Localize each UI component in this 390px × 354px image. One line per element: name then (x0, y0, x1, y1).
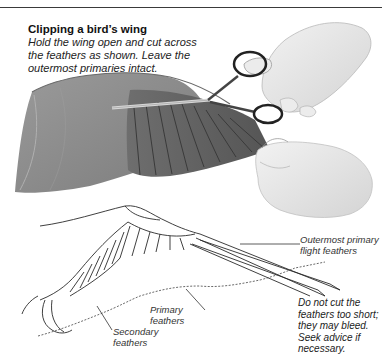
label-outermost-primary: Outermost primary flight feathers (300, 235, 390, 256)
instructions-text: Hold the wing open and cut across the fe… (28, 36, 208, 75)
lower-hand (256, 139, 373, 218)
caution-note: Do not cut the feathers too short; they … (298, 297, 388, 354)
label-secondary-feathers: Secondary feathers (113, 327, 183, 348)
page-title: Clipping a bird’s wing (28, 23, 208, 36)
label-primary-feathers: Primary feathers (150, 305, 210, 326)
title-block: Clipping a bird’s wing Hold the wing ope… (28, 23, 208, 75)
photo-wing (15, 73, 270, 193)
